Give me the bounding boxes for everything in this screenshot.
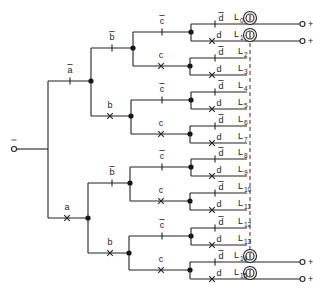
output-label-L3-subscript: 3 [244, 68, 248, 75]
label-d-bar: d [218, 182, 223, 192]
output-label-L0: L [234, 12, 239, 22]
label-b-bar: b [109, 167, 114, 177]
label-c-bar: c [160, 84, 165, 94]
label-d: d [216, 199, 221, 209]
supply-terminal [300, 22, 305, 27]
output-label-L4: L [238, 80, 243, 90]
output-label-L15: L [234, 267, 239, 277]
output-label-L2: L [238, 46, 243, 56]
output-label-L7-subscript: 7 [244, 136, 248, 143]
output-label-L9: L [238, 164, 243, 174]
output-label-L11-subscript: 11 [244, 203, 251, 210]
label-c: c [159, 254, 164, 264]
labels: aabbbbccccccccdL0+dL1+dL2dL3dL4dL5dL6dL7… [64, 12, 313, 284]
label-b: b [107, 237, 112, 247]
relay-tree-diagram: aabbbbccccccccdL0+dL1+dL2dL3dL4dL5dL6dL7… [0, 0, 313, 289]
label-a-bar: a [67, 65, 72, 75]
supply-terminal [300, 277, 305, 282]
output-label-L2-subscript: 2 [244, 51, 248, 58]
label-c: c [159, 185, 164, 195]
label-d-bar: d [218, 13, 223, 23]
supply-terminal [300, 260, 305, 265]
output-label-L12: L [238, 216, 243, 226]
output-label-L12-subscript: 12 [244, 221, 252, 228]
output-label-L11: L [238, 198, 243, 208]
label-c-bar: c [160, 220, 165, 230]
label-c-bar: c [160, 151, 165, 161]
label-b: b [107, 100, 112, 110]
label-d: d [216, 98, 221, 108]
supply-plus-label: + [308, 19, 313, 29]
label-d-bar: d [218, 217, 223, 227]
output-label-L0-subscript: 0 [240, 17, 244, 24]
output-label-L5-subscript: 5 [244, 102, 248, 109]
supply-plus-label: + [308, 36, 313, 46]
supply-plus-label: + [308, 274, 313, 284]
label-c: c [159, 118, 164, 128]
label-d: d [216, 64, 221, 74]
output-label-L8: L [238, 147, 243, 157]
output-label-L13: L [238, 233, 243, 243]
output-label-L13-subscript: 13 [244, 238, 252, 245]
label-d: d [216, 132, 221, 142]
label-d: d [216, 268, 221, 278]
output-label-L10-subscript: 10 [244, 186, 252, 193]
output-label-L14: L [234, 250, 239, 260]
label-c: c [159, 50, 164, 60]
label-d-bar: d [218, 148, 223, 158]
output-label-L14-subscript: 14 [240, 255, 248, 262]
label-c-bar: c [160, 16, 165, 26]
output-label-L5: L [238, 97, 243, 107]
label-b-bar: b [109, 32, 114, 42]
label-a: a [64, 202, 69, 212]
output-label-L15-subscript: 15 [240, 272, 248, 279]
supply-terminal [300, 39, 305, 44]
output-label-L3: L [238, 63, 243, 73]
label-d: d [216, 30, 221, 40]
output-label-L1-subscript: 1 [240, 34, 244, 41]
label-d-bar: d [218, 47, 223, 57]
output-label-L6-subscript: 6 [244, 119, 248, 126]
label-d: d [216, 165, 221, 175]
output-label-L8-subscript: 8 [244, 152, 248, 159]
output-label-L7: L [238, 131, 243, 141]
label-d: d [216, 234, 221, 244]
output-label-L9-subscript: 9 [244, 169, 248, 176]
output-label-L1: L [234, 29, 239, 39]
label-d-bar: d [218, 251, 223, 261]
output-label-L6: L [238, 114, 243, 124]
label-d-bar: d [218, 115, 223, 125]
input-terminal [12, 147, 17, 152]
output-label-L10: L [238, 181, 243, 191]
supply-plus-label: + [308, 257, 313, 267]
output-label-L4-subscript: 4 [244, 85, 248, 92]
label-d-bar: d [218, 81, 223, 91]
